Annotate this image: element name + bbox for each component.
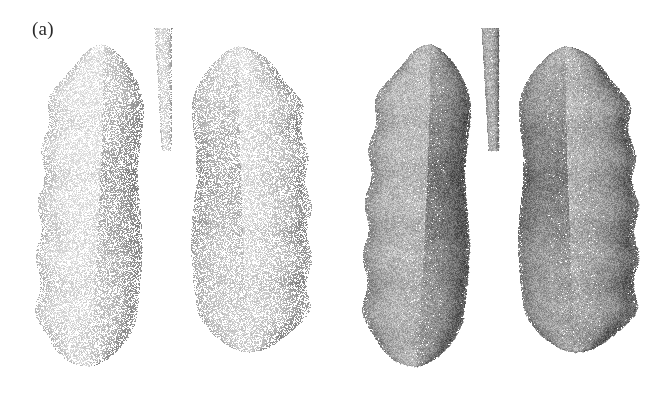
panel-b: (b) [327,0,654,398]
panel-a: (a) [0,0,327,398]
figure-root: (a) (b) [0,0,654,398]
panel-a-label: (a) [32,18,54,40]
lung-pointcloud-render-a [0,0,327,398]
lung-pointcloud-render-b [327,0,654,398]
